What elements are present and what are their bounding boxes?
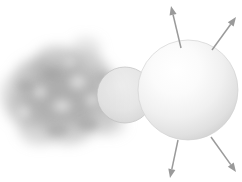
diagram-canvas <box>0 0 242 182</box>
large-sphere <box>138 40 238 140</box>
astronomy-diagram <box>0 0 242 182</box>
